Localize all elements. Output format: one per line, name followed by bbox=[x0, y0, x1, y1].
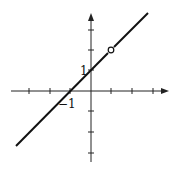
line-graph: 1 −1 bbox=[0, 0, 182, 174]
y-axis-arrow-icon bbox=[88, 13, 94, 21]
y-intercept-label: 1 bbox=[80, 64, 88, 78]
y-axis bbox=[88, 13, 94, 162]
x-axis-arrow-icon bbox=[161, 88, 169, 94]
function-line bbox=[16, 13, 148, 146]
open-circle-hole bbox=[108, 47, 114, 53]
x-axis bbox=[11, 88, 169, 94]
x-intercept-label: −1 bbox=[58, 97, 76, 111]
